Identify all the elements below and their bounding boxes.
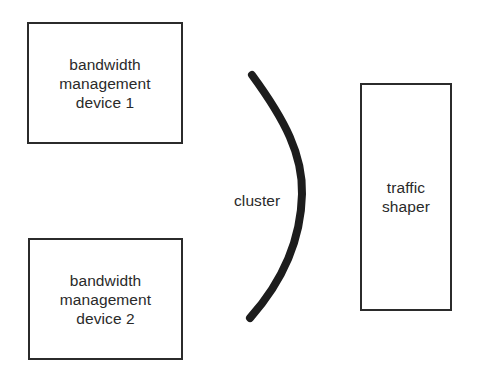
node-label-device-1: bandwidth management device 1	[59, 55, 150, 112]
cluster-label: cluster	[234, 191, 280, 210]
node-label-device-2: bandwidth management device 2	[60, 271, 151, 328]
diagram-canvas: bandwidth management device 1 bandwidth …	[0, 0, 482, 374]
node-traffic-shaper[interactable]: traffic shaper	[360, 83, 452, 311]
node-label-traffic-shaper: traffic shaper	[382, 178, 430, 216]
node-bandwidth-management-device-2[interactable]: bandwidth management device 2	[28, 238, 183, 360]
node-bandwidth-management-device-1[interactable]: bandwidth management device 1	[27, 22, 183, 144]
